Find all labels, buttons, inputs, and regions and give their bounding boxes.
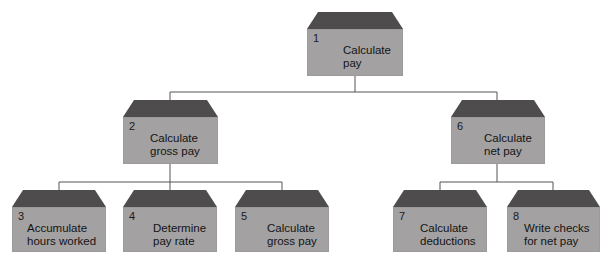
node-body: 4 Determine pay rate [123,207,217,252]
node-roof [235,190,329,207]
node-calculate-gross-pay: 2 Calculate gross pay [123,100,218,164]
node-label-line1: Calculate [267,222,315,234]
node-body: 7 Calculate deductions [393,207,487,252]
node-label-line2: for net pay [524,235,578,247]
node-label-line2: net pay [484,145,522,157]
node-body: 8 Write checks for net pay [507,207,600,252]
node-label-line2: gross pay [267,235,317,247]
node-label-line1: Calculate [150,132,198,144]
node-number: 5 [241,210,247,222]
node-number: 6 [457,120,463,132]
node-label-line1: Calculate [484,132,532,144]
node-body: 5 Calculate gross pay [235,207,329,252]
node-number: 4 [129,210,135,222]
node-roof [451,100,545,117]
node-calculate-gross-pay-detail: 5 Calculate gross pay [235,190,329,252]
node-body: 1 Calculate pay [307,29,403,76]
node-label: Calculate gross pay [267,222,317,248]
node-roof [393,190,487,207]
node-label-line2: pay [343,57,362,69]
node-label-line2: pay rate [153,235,195,247]
node-determine-pay-rate: 4 Determine pay rate [123,190,217,252]
node-number: 1 [313,32,319,44]
node-label: Write checks for net pay [524,222,590,248]
node-label: Calculate deductions [420,222,476,248]
node-write-checks: 8 Write checks for net pay [507,190,600,252]
node-label-line2: deductions [420,235,476,247]
node-label: Determine pay rate [153,222,206,248]
node-body: 2 Calculate gross pay [123,117,218,164]
node-label-line1: Calculate [343,44,391,56]
node-label-line1: Calculate [420,222,468,234]
node-roof [12,190,106,207]
node-calculate-deductions: 7 Calculate deductions [393,190,487,252]
node-number: 8 [513,210,519,222]
node-label-line2: gross pay [150,145,200,157]
node-number: 2 [129,120,135,132]
node-body: 3 Accumulate hours worked [12,207,106,252]
node-number: 7 [399,210,405,222]
node-label: Calculate gross pay [150,132,200,158]
node-label-line1: Determine [153,222,206,234]
node-calculate-net-pay: 6 Calculate net pay [451,100,545,164]
node-accumulate-hours-worked: 3 Accumulate hours worked [12,190,106,252]
node-label-line2: hours worked [27,235,96,247]
node-label: Calculate pay [343,44,391,70]
node-body: 6 Calculate net pay [451,117,545,164]
node-label: Calculate net pay [484,132,532,158]
node-roof [307,12,403,29]
node-roof [123,190,217,207]
node-roof [507,190,600,207]
node-label-line1: Write checks [524,222,590,234]
node-calculate-pay: 1 Calculate pay [307,12,403,76]
node-roof [123,100,218,117]
node-label-line1: Accumulate [27,222,87,234]
node-label: Accumulate hours worked [27,222,96,248]
hierarchy-diagram: 1 Calculate pay 2 Calculate gross pay 6 … [0,0,608,263]
node-number: 3 [18,210,24,222]
